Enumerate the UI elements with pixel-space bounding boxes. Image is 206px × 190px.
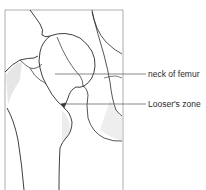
hip-diagram	[0, 0, 206, 190]
trochanter-inner	[30, 68, 46, 84]
diagram-frame	[5, 10, 123, 190]
femur-lateral-cortex	[7, 108, 24, 190]
loosers-zone-mark	[61, 103, 66, 108]
label-loosers-zone: Looser's zone	[148, 100, 201, 109]
femoral-head-left	[39, 36, 50, 84]
femoral-neck-inferior	[46, 84, 64, 106]
acetabulum-shading	[100, 100, 122, 140]
label-neck-of-femur: neck of femur	[148, 70, 200, 79]
pelvic-brim-curve	[92, 10, 122, 54]
trochanter-shading	[62, 110, 70, 142]
ischium-inner	[104, 76, 122, 78]
femoral-head	[50, 33, 95, 87]
acetabulum-curve	[92, 12, 122, 116]
ilium-outline	[30, 10, 50, 37]
joint-line	[57, 37, 83, 86]
